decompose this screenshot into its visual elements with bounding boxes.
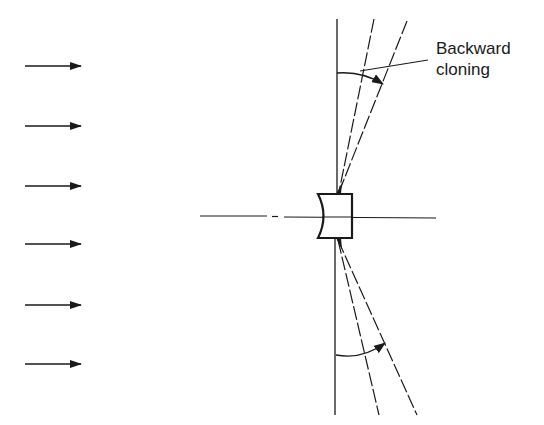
lower-cone-rays <box>338 240 417 415</box>
annotation-leader-line <box>360 60 428 71</box>
upper-angle-arc-arrow <box>337 73 383 84</box>
upper-cone-rays <box>339 19 407 192</box>
incident-arrows <box>25 66 81 364</box>
lower-angle-arc-arrow <box>336 343 385 356</box>
annotation-line-1: Backward <box>436 38 511 59</box>
annotation-label: Backward cloning <box>436 38 511 80</box>
optical-axis <box>200 216 436 218</box>
annotation-line-2: cloning <box>436 59 511 80</box>
lens <box>318 194 352 238</box>
